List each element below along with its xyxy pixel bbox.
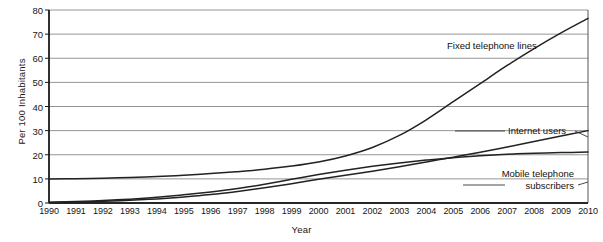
x-tick-2010: 2010	[568, 206, 603, 216]
leader-mobile-subscribers-right	[578, 182, 588, 185]
y-tick-60: 60	[13, 53, 43, 64]
line-chart-figure: Per 100 Inhabitants Year 010203040506070…	[0, 0, 603, 242]
y-tick-80: 80	[13, 5, 43, 16]
series-annotation-fixed-label: Fixed telephone lines	[447, 40, 537, 51]
y-tick-40: 40	[13, 101, 43, 112]
series-annotation-internet-users: Internet users	[508, 125, 566, 137]
series-annotation-internet-label: Internet users	[508, 125, 566, 136]
y-tick-10: 10	[13, 173, 43, 184]
x-axis-label: Year	[0, 224, 603, 235]
series-annotation-mobile-label-line2: subscribers	[444, 180, 574, 192]
series-annotation-fixed-telephone-lines: Fixed telephone lines	[447, 40, 537, 52]
y-tick-20: 20	[13, 149, 43, 160]
series-line-internet-users	[49, 131, 588, 203]
y-tick-50: 50	[13, 77, 43, 88]
y-tick-30: 30	[13, 125, 43, 136]
y-tick-70: 70	[13, 29, 43, 40]
series-annotation-mobile-label-line1: Mobile telephone	[444, 168, 574, 180]
series-annotation-mobile-telephone-subscribers: Mobile telephone subscribers	[444, 168, 574, 191]
